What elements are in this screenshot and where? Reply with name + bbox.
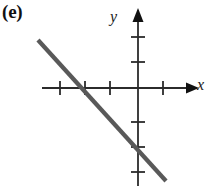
part-label: (e) <box>2 1 23 23</box>
y-axis-label: y <box>110 8 117 26</box>
plotted-line <box>38 40 166 181</box>
y-axis-arrowhead <box>133 8 144 22</box>
graph-figure: (e) y x <box>0 0 213 196</box>
coordinate-plane-svg <box>0 0 213 196</box>
x-axis-label: x <box>197 76 204 94</box>
